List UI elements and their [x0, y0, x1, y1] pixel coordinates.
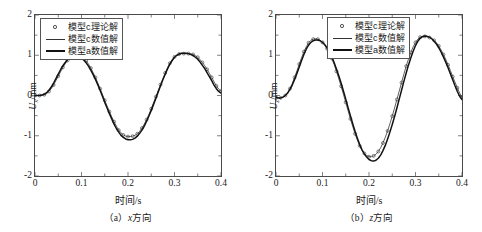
circle-marker-icon [331, 24, 353, 28]
x-tick-label: 0.1 [317, 179, 329, 189]
y-axis-symbol: U [269, 102, 279, 109]
x-tick-label: 0.2 [363, 179, 375, 189]
legend-b: 模型c理论解 模型c数值解 模型a数值解 [327, 17, 410, 59]
thin-line-icon [44, 39, 66, 40]
legend-a: 模型c理论解 模型c数值解 模型a数值解 [40, 18, 123, 60]
x-tick-label: 0.2 [122, 179, 134, 189]
legend-label: 模型c理论解 [353, 22, 405, 31]
caption-index: （b） [345, 213, 370, 223]
legend-entry: 模型c数值解 [331, 32, 405, 44]
circle-marker-icon [44, 25, 66, 29]
x-tick-label: 0.1 [76, 179, 88, 189]
thin-line-icon [331, 38, 353, 39]
y-axis-title-b: Uz/mm [269, 51, 281, 141]
legend-entry: 模型c理论解 [331, 20, 405, 32]
caption-suffix: 方向 [132, 213, 152, 223]
y-tick-label: 2 [27, 10, 32, 20]
subfigure-caption-b: （b）z方向 [275, 210, 463, 224]
x-tick-label: 0.4 [215, 179, 227, 189]
x-axis-title-a: 时间/s [34, 192, 222, 207]
y-tick-label: 2 [268, 10, 273, 20]
legend-entry: 模型a数值解 [331, 44, 405, 56]
chart-panel-b: 2 1 0 -1 -2 0 0.1 0.2 0.3 0.4 Uz/mm 模型c理… [241, 0, 482, 232]
x-tick-label: 0.3 [169, 179, 181, 189]
x-tick-label: 0 [33, 179, 38, 189]
y-axis-symbol: U [28, 102, 38, 109]
y-tick-label: -2 [265, 171, 273, 181]
figure-root: 2 1 0 -1 -2 0 0.1 0.2 0.3 0.4 Ux/mm 模型c理… [0, 0, 482, 232]
thick-line-icon [44, 50, 66, 52]
caption-index: （a） [104, 213, 128, 223]
x-axis-title-b: 时间/s [275, 192, 463, 207]
legend-entry: 模型c理论解 [44, 21, 118, 33]
legend-label: 模型c理论解 [66, 23, 118, 32]
x-tick-label: 0.4 [456, 179, 468, 189]
legend-entry: 模型a数值解 [44, 45, 118, 57]
chart-panel-a: 2 1 0 -1 -2 0 0.1 0.2 0.3 0.4 Ux/mm 模型c理… [0, 0, 241, 232]
legend-label: 模型c数值解 [66, 35, 118, 44]
legend-label: 模型a数值解 [66, 47, 118, 56]
y-axis-unit: /mm [28, 82, 38, 99]
x-tick-label: 0.3 [410, 179, 422, 189]
caption-suffix: 方向 [373, 213, 393, 223]
y-axis-unit: /mm [269, 82, 279, 99]
subfigure-caption-a: （a）x方向 [34, 210, 222, 224]
thick-line-icon [331, 49, 353, 51]
y-axis-title-a: Ux/mm [28, 51, 40, 141]
legend-label: 模型a数值解 [353, 46, 405, 55]
x-tick-label: 0 [274, 179, 279, 189]
legend-entry: 模型c数值解 [44, 33, 118, 45]
y-tick-label: -2 [24, 171, 32, 181]
legend-label: 模型c数值解 [353, 34, 405, 43]
